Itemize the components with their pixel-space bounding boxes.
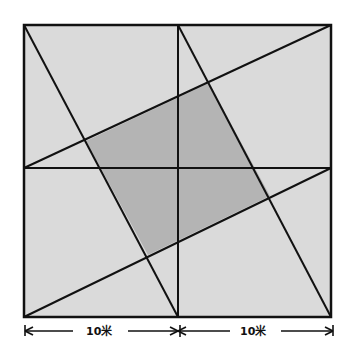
- geometry-diagram: 10米 10米: [0, 0, 352, 357]
- dimension-label-right: 10米: [240, 324, 267, 338]
- dimension-label-left: 10米: [86, 324, 113, 338]
